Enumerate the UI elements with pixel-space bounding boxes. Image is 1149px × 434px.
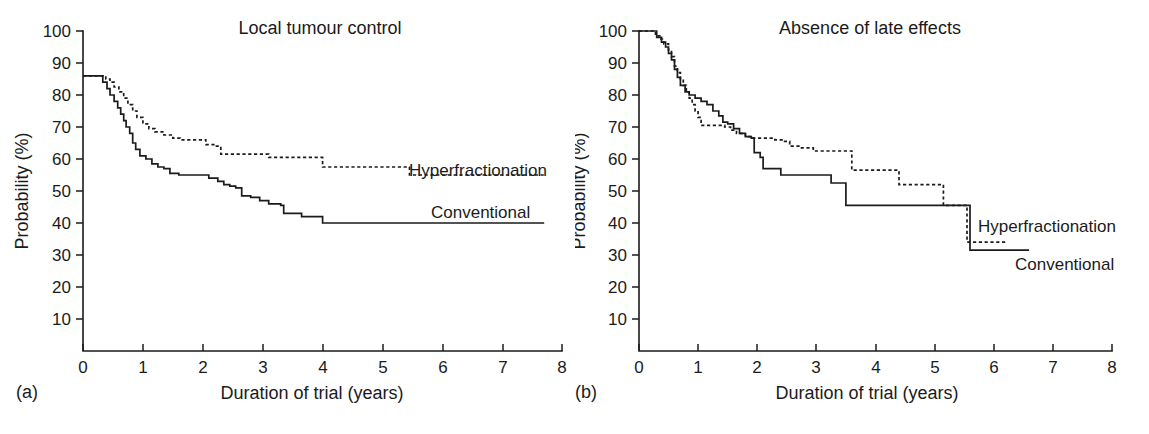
y-tick-label: 10 [52, 310, 71, 329]
y-tick-label: 70 [608, 118, 627, 137]
y-tick-label: 70 [52, 118, 71, 137]
y-tick-label: 40 [52, 214, 71, 233]
x-tick-label: 7 [1048, 358, 1057, 377]
panel-title: Local tumour control [238, 18, 401, 38]
curve-hyperfractionation [639, 31, 1005, 242]
x-tick-label: 3 [258, 358, 267, 377]
y-tick-label: 100 [599, 22, 627, 41]
x-tick-label: 4 [318, 358, 327, 377]
x-tick-label: 7 [498, 358, 507, 377]
x-ticks-b [639, 344, 1112, 351]
panel-b-plot: 100 90 80 70 60 50 40 30 20 10 0 [575, 0, 1149, 434]
y-tick-label: 50 [608, 182, 627, 201]
y-tick-label: 30 [52, 246, 71, 265]
x-tick-label: 6 [438, 358, 447, 377]
x-ticks-a [83, 344, 562, 351]
x-tick-label: 0 [634, 358, 643, 377]
y-ticks-a [76, 31, 83, 319]
x-tick-label: 8 [1107, 358, 1116, 377]
series-label-conventional: Conventional [1015, 255, 1114, 274]
x-tick-label: 2 [198, 358, 207, 377]
x-tick-label: 0 [78, 358, 87, 377]
panel-absence-of-late-effects: 100 90 80 70 60 50 40 30 20 10 0 [575, 0, 1149, 434]
y-tick-label: 50 [52, 182, 71, 201]
panel-a-plot: 100 90 80 70 60 50 40 30 20 10 [0, 0, 575, 434]
x-tick-label: 1 [693, 358, 702, 377]
figure-kaplan-meier-panels: 100 90 80 70 60 50 40 30 20 10 [0, 0, 1149, 434]
y-axis-title: Probability (%) [575, 132, 589, 249]
series-label-conventional: Conventional [431, 203, 530, 222]
y-tick-label: 30 [608, 246, 627, 265]
x-tick-label: 1 [138, 358, 147, 377]
y-tick-label: 80 [608, 86, 627, 105]
panel-local-tumour-control: 100 90 80 70 60 50 40 30 20 10 [0, 0, 575, 434]
panel-title: Absence of late effects [779, 18, 961, 38]
y-tick-label: 80 [52, 86, 71, 105]
curve-conventional [83, 76, 544, 223]
x-tick-label: 3 [811, 358, 820, 377]
y-tick-label: 60 [52, 150, 71, 169]
axis-lines-b [639, 31, 1112, 351]
y-axis-title: Probability (%) [12, 132, 32, 249]
y-tick-label: 10 [608, 310, 627, 329]
x-tick-label: 5 [378, 358, 387, 377]
x-tick-label: 8 [557, 358, 566, 377]
curve-conventional [639, 31, 1029, 250]
y-tick-label: 100 [43, 22, 71, 41]
panel-tag: (b) [575, 382, 597, 402]
y-tick-label: 40 [608, 214, 627, 233]
y-tick-label: 90 [608, 54, 627, 73]
series-label-hyperfractionation: Hyperfractionation [978, 217, 1116, 236]
x-axis-title: Duration of trial (years) [775, 383, 958, 403]
y-tick-label: 90 [52, 54, 71, 73]
x-axis-title: Duration of trial (years) [220, 383, 403, 403]
x-tick-label: 5 [930, 358, 939, 377]
y-tick-label: 60 [608, 150, 627, 169]
y-ticks-b [632, 31, 639, 319]
y-tick-label: 20 [52, 278, 71, 297]
series-label-hyperfractionation: Hyperfractionation [409, 161, 547, 180]
y-tick-label: 20 [608, 278, 627, 297]
x-tick-label: 4 [871, 358, 880, 377]
x-tick-label: 6 [989, 358, 998, 377]
axis-lines-a [83, 31, 562, 351]
x-tick-label: 2 [752, 358, 761, 377]
panel-tag: (a) [16, 382, 38, 402]
